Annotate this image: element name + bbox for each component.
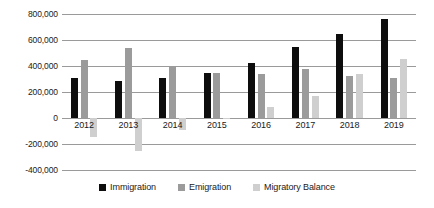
x-tick-label-2015: 2015 bbox=[195, 118, 239, 132]
bar-balance-2018 bbox=[356, 74, 363, 118]
migration-bar-chart: 800,000600,000400,000200,0000-200,000-40… bbox=[0, 0, 434, 208]
bar-emigration-2013 bbox=[125, 48, 132, 118]
bar-group bbox=[62, 14, 106, 170]
bar-emigration-2016 bbox=[258, 74, 265, 118]
bar-group bbox=[372, 14, 416, 170]
y-tick-label: -400,000 bbox=[0, 166, 58, 175]
y-tick-label: 200,000 bbox=[0, 88, 58, 97]
bars bbox=[62, 14, 106, 170]
bars bbox=[106, 14, 150, 170]
x-tick-label-2018: 2018 bbox=[328, 118, 372, 132]
legend-item-migratory-balance[interactable]: Migratory Balance bbox=[253, 182, 335, 192]
bars bbox=[283, 14, 327, 170]
y-tick-label: 400,000 bbox=[0, 62, 58, 71]
chart-legend: ImmigrationEmigrationMigratory Balance bbox=[0, 182, 434, 192]
bar-group bbox=[283, 14, 327, 170]
bar-balance-2019 bbox=[400, 59, 407, 118]
x-tick-label-2017: 2017 bbox=[283, 118, 327, 132]
bar-groups bbox=[62, 14, 416, 170]
legend-label: Migratory Balance bbox=[264, 182, 335, 192]
y-tick-label: -200,000 bbox=[0, 140, 58, 149]
bar-balance-2017 bbox=[312, 96, 319, 118]
bar-immigration-2017 bbox=[292, 47, 299, 118]
bar-emigration-2012 bbox=[81, 60, 88, 119]
y-tick-label: 800,000 bbox=[0, 10, 58, 19]
legend-label: Immigration bbox=[110, 182, 156, 192]
bar-emigration-2018 bbox=[346, 76, 353, 118]
legend-label: Emigration bbox=[189, 182, 231, 192]
bar-immigration-2016 bbox=[248, 63, 255, 118]
bars bbox=[328, 14, 372, 170]
bar-emigration-2019 bbox=[390, 78, 397, 118]
bar-group bbox=[151, 14, 195, 170]
x-tick-label-2016: 2016 bbox=[239, 118, 283, 132]
legend-swatch-icon bbox=[253, 184, 260, 191]
bar-immigration-2018 bbox=[336, 34, 343, 119]
bar-group bbox=[106, 14, 150, 170]
bars bbox=[372, 14, 416, 170]
bars bbox=[151, 14, 195, 170]
x-tick-label-2012: 2012 bbox=[62, 118, 106, 132]
x-tick-label-2013: 2013 bbox=[106, 118, 150, 132]
bar-group bbox=[239, 14, 283, 170]
y-tick-label: 0 bbox=[0, 114, 58, 123]
bar-group bbox=[195, 14, 239, 170]
bars bbox=[239, 14, 283, 170]
bar-group bbox=[328, 14, 372, 170]
bar-immigration-2019 bbox=[381, 19, 388, 118]
bars bbox=[195, 14, 239, 170]
bar-immigration-2013 bbox=[115, 81, 122, 118]
x-tick-label-2019: 2019 bbox=[372, 118, 416, 132]
gridline bbox=[62, 170, 416, 171]
bar-immigration-2012 bbox=[71, 78, 78, 118]
bar-emigration-2015 bbox=[213, 73, 220, 118]
legend-item-immigration[interactable]: Immigration bbox=[99, 182, 156, 192]
legend-item-emigration[interactable]: Emigration bbox=[178, 182, 231, 192]
legend-swatch-icon bbox=[99, 184, 106, 191]
bar-emigration-2017 bbox=[302, 69, 309, 118]
y-tick-label: 600,000 bbox=[0, 36, 58, 45]
x-tick-label-2014: 2014 bbox=[151, 118, 195, 132]
bar-immigration-2014 bbox=[159, 78, 166, 118]
x-axis-labels: 20122013201420152016201720182019 bbox=[62, 118, 416, 132]
bar-balance-2016 bbox=[267, 107, 274, 118]
bar-emigration-2014 bbox=[169, 66, 176, 118]
legend-swatch-icon bbox=[178, 184, 185, 191]
bar-immigration-2015 bbox=[204, 73, 211, 118]
